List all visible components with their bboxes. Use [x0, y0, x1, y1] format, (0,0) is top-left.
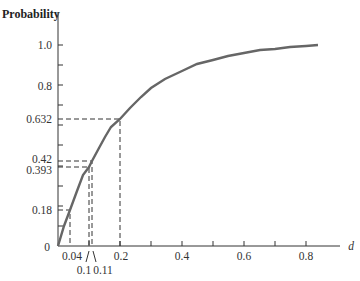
y-axis-label: Probability [2, 7, 60, 21]
x-tick-0-6: 0.6 [237, 250, 252, 262]
probability-curve [58, 45, 318, 246]
x-axis-label: d [348, 240, 354, 252]
x-tick-0-2: 0.2 [114, 250, 129, 262]
arrow-0-11 [93, 251, 96, 262]
x-ticks [89, 241, 306, 246]
y-tick-0-393: 0.393 [26, 164, 52, 176]
origin-label: 0 [44, 241, 50, 253]
y-tick-0-18: 0.18 [32, 204, 52, 216]
y-ticks [58, 45, 63, 226]
x-tick-0-1: 0.1 [77, 264, 92, 276]
probability-chart: Probability d 1.0 0.8 0.632 0.42 0.393 0… [0, 0, 360, 281]
x-tick-0-4: 0.4 [175, 250, 190, 262]
x-tick-0-8: 0.8 [299, 250, 314, 262]
reference-lines [58, 119, 120, 246]
x-tick-0-11: 0.11 [93, 264, 113, 276]
y-tick-1-0: 1.0 [38, 39, 53, 51]
arrow-0-1 [86, 251, 89, 262]
x-tick-0-04: 0.04 [62, 250, 82, 262]
y-tick-0-632: 0.632 [26, 113, 52, 125]
y-tick-0-8: 0.8 [38, 80, 53, 92]
